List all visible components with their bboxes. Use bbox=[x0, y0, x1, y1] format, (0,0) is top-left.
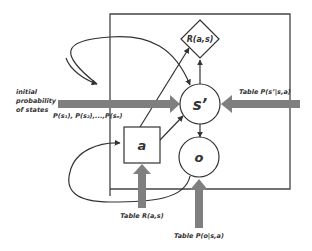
node-observation: o bbox=[179, 137, 219, 177]
feedback-curve-top bbox=[71, 37, 190, 85]
observation-table-label: Table P(o|s,a) bbox=[174, 232, 224, 240]
transition-table-arrow bbox=[221, 95, 300, 113]
transition-table-label: Table P(s’|s,a) bbox=[239, 88, 291, 96]
diagram-canvas: R(a,s) s’ o a initial probability of sta… bbox=[0, 0, 312, 251]
initial-label-line2: probability bbox=[15, 97, 57, 105]
action-label: a bbox=[138, 138, 147, 153]
edge-action-to-sprime bbox=[160, 116, 183, 140]
pomdp-diagram: R(a,s) s’ o a initial probability of sta… bbox=[0, 0, 312, 251]
reward-table-label: Table R(a,s) bbox=[120, 212, 163, 220]
initial-prob-arrow bbox=[58, 95, 180, 113]
state-next-label: s’ bbox=[193, 96, 208, 114]
node-state-next: s’ bbox=[180, 84, 220, 124]
initial-formula: P(s₁), P(s₂),...,P(sₙ) bbox=[53, 112, 122, 120]
observation-table-arrow bbox=[190, 179, 208, 228]
initial-label-line1: initial bbox=[16, 88, 38, 96]
observation-label: o bbox=[195, 150, 204, 165]
node-action: a bbox=[124, 127, 160, 163]
edge-action-to-reward bbox=[140, 48, 189, 127]
reward-label: R(a,s) bbox=[187, 35, 214, 44]
initial-label-line3: of states bbox=[16, 106, 48, 114]
